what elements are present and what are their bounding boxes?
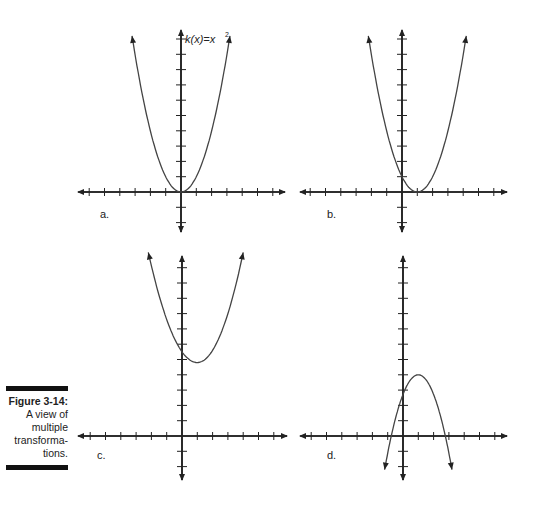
parabola-curve (385, 375, 452, 470)
function-annotation: k(x)=x (185, 33, 216, 45)
caption-title: Figure 3-14: (6, 395, 68, 408)
panel-a: a.k(x)=x2 (78, 30, 285, 232)
curve-arrow-icon (462, 36, 468, 43)
parabola-curve (368, 36, 466, 192)
figure-caption: Figure 3-14: A view of multiple transfor… (6, 386, 68, 470)
panel-label: a. (100, 208, 109, 220)
caption-line-4: tions. (6, 447, 68, 460)
panel-d: d. (300, 256, 507, 480)
caption-line-3: transforma- (6, 434, 68, 447)
panel-label: d. (327, 449, 336, 461)
figure-canvas: a.k(x)=x2b.c.d. (0, 0, 537, 505)
curve-arrow-icon (130, 36, 136, 43)
caption-line-2: multiple (6, 421, 68, 434)
function-annotation-exponent: 2 (225, 31, 229, 38)
panel-label: c. (97, 449, 106, 461)
curve-arrow-icon (366, 36, 372, 43)
curve-arrow-icon (383, 462, 389, 469)
parabola-curve (148, 252, 243, 362)
curve-arrow-icon (448, 462, 454, 469)
curve-arrow-icon (239, 252, 245, 259)
panel-label: b. (327, 208, 336, 220)
caption-line-1: A view of (6, 408, 68, 421)
panel-c: c. (78, 252, 287, 480)
panel-b: b. (300, 30, 507, 232)
caption-bottom-bar (6, 465, 68, 470)
curve-arrow-icon (147, 252, 153, 259)
